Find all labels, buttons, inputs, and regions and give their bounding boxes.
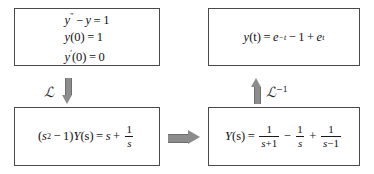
ic1-arg: (0) — [70, 30, 85, 44]
partial-fraction-equation: Y(s)=1s+1−1s+1s−1 — [225, 124, 343, 149]
ode-minus: − — [73, 14, 85, 28]
pf-term3-fraction: 1s−1 — [321, 124, 341, 149]
label-laplace-transform: ℒ — [44, 84, 54, 100]
pf-operator-2: + — [307, 129, 319, 144]
pf-term1-denominator: s+1 — [259, 136, 279, 149]
ic2-equals: = — [86, 50, 98, 64]
solution-equation: y(t)=e−t−1+et — [244, 30, 325, 45]
box-ode-initial-value-problem: y″−y=1 y(0)=1 y′(0)=0 — [14, 8, 160, 66]
ode-rhs: 1 — [103, 14, 109, 28]
pf-term1-numerator: 1 — [265, 124, 275, 136]
box-time-domain-solution: y(t)=e−t−1+et — [208, 8, 360, 66]
pf-operator-1: − — [281, 129, 293, 144]
laplace-symbol: ℒ — [44, 84, 54, 100]
arrow-down-head — [62, 95, 72, 104]
sol-arg: (t) — [249, 30, 261, 45]
arrow-right-head — [188, 130, 200, 144]
arrow-up-icon — [251, 78, 262, 104]
sol-equals: = — [261, 30, 273, 45]
box-transformed-algebraic-equation: (s2−1)Y(s)=s+1s — [14, 107, 160, 166]
pf-term2-numerator: 1 — [295, 124, 305, 136]
pf-term3-den-num: 1 — [333, 137, 339, 149]
inverse-laplace-superscript: −1 — [276, 85, 288, 94]
arrow-right-shaft — [168, 134, 188, 143]
sol-exp2-superscript: t — [322, 33, 324, 42]
pf-Y-arg: (s) — [232, 129, 245, 144]
arrow-up-head — [251, 78, 261, 87]
alg-Y: Y — [73, 129, 80, 144]
ode-line-3: y′(0)=0 — [65, 46, 105, 65]
pf-term3-numerator: 1 — [326, 124, 336, 136]
ode-line-2: y(0)=1 — [65, 30, 103, 45]
diagram-canvas: y″−y=1 y(0)=1 y′(0)=0 y(t)=e−t−1+et (s2−… — [0, 0, 374, 174]
ode-equation-stack: y″−y=1 y(0)=1 y′(0)=0 — [65, 9, 110, 64]
arrow-down-icon — [62, 78, 73, 104]
pf-term1-fraction: 1s+1 — [259, 124, 279, 149]
alg-fraction: 1s — [125, 124, 135, 149]
pf-term1-den-num: 1 — [272, 137, 278, 149]
alg-minus: − — [51, 129, 63, 144]
ic1-equals: = — [85, 30, 97, 44]
ic1-value: 1 — [97, 30, 103, 44]
arrow-down-shaft — [65, 78, 72, 95]
pf-term2-fraction: 1s — [295, 124, 305, 149]
ode-line-1: y″−y=1 — [65, 9, 110, 28]
inverse-laplace-symbol: ℒ — [266, 84, 276, 100]
box-partial-fraction-expansion: Y(s)=1s+1−1s+1s−1 — [208, 107, 360, 166]
ic2-value: 0 — [99, 50, 105, 64]
algebraic-equation: (s2−1)Y(s)=s+1s — [38, 124, 136, 149]
alg-Y-arg: (s) — [80, 129, 93, 144]
ic2-arg: (0) — [72, 50, 87, 64]
pf-equals: = — [245, 129, 257, 144]
sol-plus: + — [305, 30, 317, 45]
label-inverse-laplace-transform: ℒ−1 — [266, 84, 288, 100]
pf-Y: Y — [225, 129, 232, 144]
pf-term3-denominator: s−1 — [321, 136, 341, 149]
alg-plus: + — [111, 129, 123, 144]
pf-term2-denominator: s — [296, 136, 304, 149]
alg-equals: = — [94, 129, 106, 144]
arrow-right-icon — [168, 130, 200, 144]
arrow-up-shaft — [254, 87, 261, 104]
sol-exp1-superscript: −t — [279, 33, 287, 42]
alg-fraction-denominator: s — [125, 136, 133, 149]
ode-equals: = — [91, 14, 103, 28]
sol-minus: − — [286, 30, 298, 45]
alg-fraction-numerator: 1 — [125, 124, 135, 136]
